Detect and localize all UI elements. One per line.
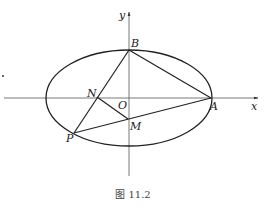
point-label-N: N	[86, 87, 97, 100]
ellipse-geometry-figure: x y O B A N M P 图 11.2	[0, 0, 266, 210]
point-label-M: M	[129, 120, 142, 133]
segment-BA	[129, 50, 211, 98]
point-label-B: B	[130, 37, 139, 50]
segment-PA	[74, 98, 211, 133]
point-label-A: A	[209, 100, 218, 113]
stray-dot	[2, 75, 4, 77]
x-axis-label: x	[251, 100, 258, 113]
figure-caption: 图 11.2	[115, 189, 150, 200]
y-axis-label: y	[118, 9, 126, 22]
origin-label: O	[118, 99, 127, 112]
point-label-P: P	[65, 132, 74, 145]
